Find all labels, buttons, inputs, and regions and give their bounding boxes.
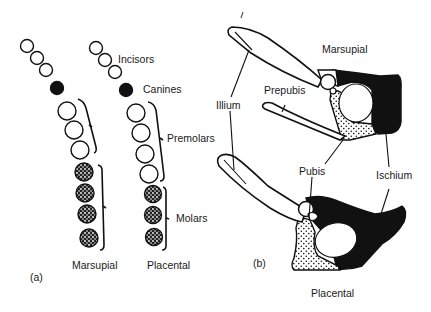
marsupial-incisor	[40, 64, 53, 77]
marsupial-pelvis	[228, 27, 401, 140]
marsupial-premolar	[65, 121, 83, 139]
marsupial-premolar	[58, 102, 76, 120]
marsupial-premolar	[71, 141, 89, 159]
placental-pelvis-title: Placental	[311, 288, 354, 299]
placental-premolar	[136, 145, 154, 163]
pubis-leader-top	[325, 140, 343, 164]
stray-mark	[241, 12, 243, 18]
placental-incisor	[90, 42, 103, 55]
panel-b-tag: (b)	[253, 258, 266, 269]
placental-molar	[146, 229, 163, 246]
marsupial-molar	[80, 229, 98, 247]
ischium-leader-bottom	[381, 189, 389, 214]
molars-label: Molars	[176, 213, 208, 224]
marsupial-obturator-foramen	[339, 84, 373, 122]
incisors-label: Incisors	[118, 54, 154, 65]
marsupial-column-label: Marsupial	[72, 260, 118, 271]
prepubis-label: Prepubis	[264, 85, 305, 96]
marsupial-molar-bracket	[98, 165, 104, 250]
placental-molar	[145, 186, 162, 203]
panel-a-tag: (a)	[30, 272, 43, 283]
placental-canine	[120, 84, 133, 97]
marsupial-canine	[51, 82, 64, 95]
marsupial-tooth-row	[21, 40, 99, 248]
placental-molar	[145, 207, 162, 224]
pubis-label: Pubis	[299, 166, 325, 177]
placental-ilium	[218, 154, 306, 222]
marsupial-ilium	[228, 27, 322, 87]
placental-molar-bracket	[162, 187, 166, 250]
marsupial-incisor	[31, 52, 44, 65]
premolars-label: Premolars	[167, 133, 215, 144]
placental-premolar	[140, 165, 158, 183]
placental-premolar	[127, 104, 145, 122]
ilium-label: Illium	[216, 100, 241, 111]
marsupial-molar	[76, 184, 94, 202]
marsupial-acetabulum	[321, 75, 336, 90]
placental-incisor	[99, 54, 112, 67]
placental-column-label: Placental	[147, 260, 190, 271]
ilium-leader-top	[231, 50, 249, 97]
canines-label: Canines	[143, 84, 182, 95]
marsupial-molar	[78, 205, 96, 223]
marsupial-pelvis-title: Marsupial	[322, 44, 368, 55]
ischium-leader-top	[386, 134, 389, 167]
marsupial-molar	[75, 163, 93, 181]
placental-incisor	[109, 66, 122, 79]
placental-premolar	[132, 124, 150, 142]
placental-tooth-row	[90, 42, 163, 246]
ischium-label: Ischium	[376, 170, 412, 181]
marsupial-incisor	[21, 40, 34, 53]
